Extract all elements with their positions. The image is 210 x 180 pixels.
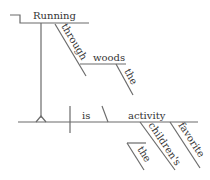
word-the-woods: the: [122, 67, 140, 87]
pedestal-fork: [36, 116, 46, 122]
complement-slash: [102, 106, 108, 122]
sentence-diagram: Running through woods the is activity ch…: [0, 0, 210, 180]
word-running: Running: [33, 10, 76, 21]
word-is: is: [82, 110, 90, 121]
word-activity: activity: [128, 110, 166, 121]
word-woods: woods: [93, 52, 125, 63]
